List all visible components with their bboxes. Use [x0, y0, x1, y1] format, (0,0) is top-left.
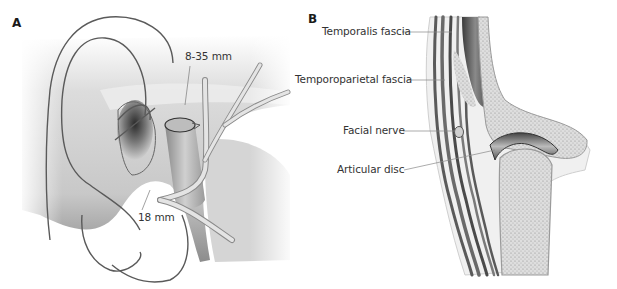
- panel-letter-a: A: [12, 16, 21, 30]
- label-facial-nerve: Facial nerve: [343, 124, 405, 136]
- label-articular-disc: Articular disc: [337, 163, 404, 175]
- panel-a: A 8-35 mm 18 mm: [0, 0, 300, 289]
- facial-nerve-section: [455, 127, 464, 138]
- ear-region-illustration: [0, 0, 300, 289]
- tmj-coronal-section: [290, 0, 617, 289]
- label-temporoparietal-fascia: Temporoparietal fascia: [295, 73, 412, 85]
- mandibular-condyle: [499, 149, 552, 275]
- panel-b: B Temporalis fascia Temporoparietal fasc…: [290, 0, 617, 289]
- label-18-mm: 18 mm: [138, 211, 175, 223]
- panel-letter-b: B: [308, 12, 317, 26]
- label-8-35-mm: 8-35 mm: [185, 50, 232, 62]
- label-temporalis-fascia: Temporalis fascia: [322, 25, 411, 37]
